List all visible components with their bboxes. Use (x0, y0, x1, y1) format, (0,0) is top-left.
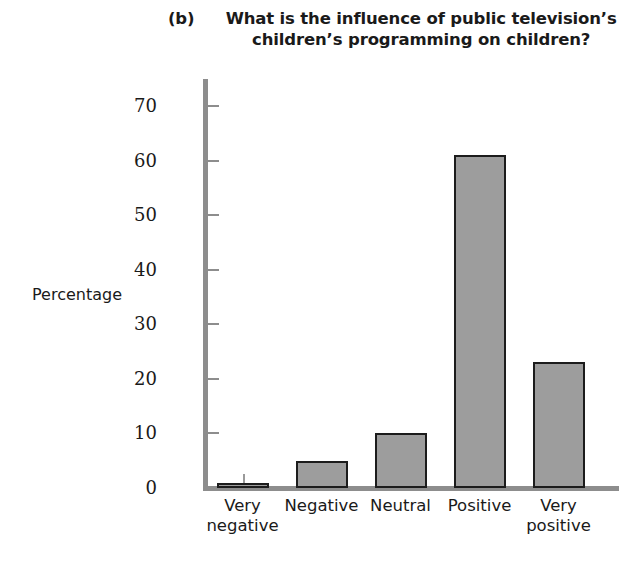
y-tick-label: 30 (115, 315, 157, 333)
y-tick-label: 70 (115, 97, 157, 115)
y-tick-mark (208, 269, 219, 271)
y-axis-line (203, 79, 208, 491)
bar (217, 483, 269, 488)
y-tick-mark (208, 214, 219, 216)
bar (533, 362, 585, 488)
chart-plot-area: Percentage 010203040506070 VerynegativeN… (0, 0, 642, 568)
y-tick-label: 20 (115, 370, 157, 388)
category-label-line1: Very (511, 496, 607, 516)
y-axis-title: Percentage (32, 285, 122, 304)
bar (375, 433, 427, 488)
y-tick-mark (208, 105, 219, 107)
bar (454, 155, 506, 488)
x-axis-category-label: Verypositive (511, 496, 607, 536)
y-tick-label: 10 (115, 424, 157, 442)
y-tick-mark (208, 160, 219, 162)
y-tick-label: 60 (115, 152, 157, 170)
y-tick-label: 40 (115, 261, 157, 279)
y-tick-label: 0 (115, 479, 157, 497)
y-tick-mark (208, 432, 219, 434)
bar (296, 461, 348, 488)
y-tick-mark (208, 323, 219, 325)
category-label-line2: negative (195, 516, 291, 536)
y-tick-mark (208, 378, 219, 380)
category-label-line2: positive (511, 516, 607, 536)
y-tick-label: 50 (115, 206, 157, 224)
